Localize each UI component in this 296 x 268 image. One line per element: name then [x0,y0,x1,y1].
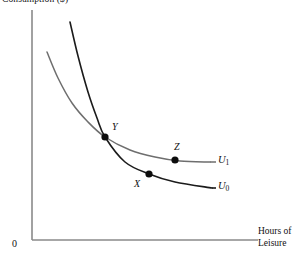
leader-lines-group [210,162,216,188]
data-point-z [171,156,178,163]
curve-label-u0: U0 [218,180,229,191]
data-point-y [101,133,108,140]
curve-label-u0-base: U [218,180,226,191]
point-label-y: Y [112,122,118,133]
y-axis-title: Consumption ($) [2,0,68,5]
origin-label: 0 [12,239,17,250]
x-axis-title: Hours ofLeisure [258,225,292,249]
curve-label-u1: U1 [218,154,229,165]
point-label-z: Z [174,142,180,153]
plot-canvas [0,0,296,268]
data-point-x [145,170,152,177]
curve-label-u0-subscript: 0 [226,184,230,193]
axes-group [32,10,258,240]
x-axis-title-line1: Hours of [258,226,292,236]
indifference-curve-figure: Consumption ($) Hours ofLeisure 0 U1 U0 … [0,0,296,268]
curve-label-u1-subscript: 1 [226,158,230,167]
curve-label-u1-base: U [218,154,226,165]
curve-u0 [70,22,212,188]
curve-u1 [47,52,210,162]
x-axis-title-line2: Leisure [258,237,292,249]
point-label-x: X [134,179,140,190]
